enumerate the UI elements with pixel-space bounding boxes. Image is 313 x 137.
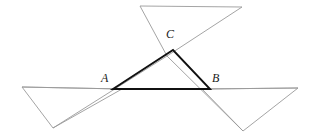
geometry-figure: A B C <box>0 0 313 137</box>
right-exterior-triangle <box>202 88 298 131</box>
label-a: A <box>101 72 108 84</box>
label-b: B <box>212 72 219 84</box>
ray-ba-extended-left <box>22 87 122 89</box>
extension-rays-group <box>22 56 298 131</box>
triangle-abc-group <box>113 50 210 89</box>
left-exterior-triangle <box>22 87 122 128</box>
top-exterior-triangle <box>140 6 242 56</box>
ray-ca-extended-down-left <box>53 56 167 128</box>
label-c: C <box>166 28 174 40</box>
ray-ab-extended-right <box>202 88 298 89</box>
ray-cb-extended-down-right <box>167 56 243 131</box>
exterior-triangles-group <box>22 6 298 131</box>
figure-canvas <box>0 0 313 137</box>
triangle-abc <box>113 50 210 89</box>
